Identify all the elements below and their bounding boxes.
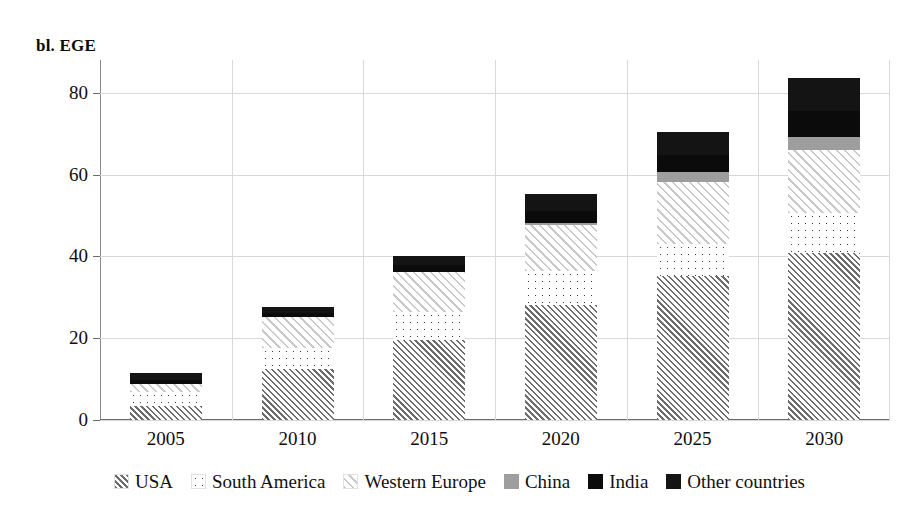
legend-label: China: [525, 472, 570, 491]
bar-segment-south-america-2020[interactable]: [525, 271, 597, 305]
x-axis-tick-label-2015: 2015: [384, 428, 474, 450]
bar-segment-china-2025[interactable]: [657, 172, 729, 181]
x-gridline: [889, 60, 890, 420]
legend-item-south-america[interactable]: South America: [191, 472, 325, 491]
y-tick-mark: [93, 256, 100, 257]
legend-item-india[interactable]: India: [588, 472, 648, 491]
x-gridline: [495, 60, 496, 420]
bar-segment-usa-2030[interactable]: [788, 253, 860, 420]
x-axis-tick-label-2010: 2010: [253, 428, 343, 450]
bar-segment-south-america-2005[interactable]: [130, 392, 202, 406]
legend-item-china[interactable]: China: [504, 472, 570, 491]
x-gridline: [627, 60, 628, 420]
india-black-swatch: [588, 474, 603, 489]
bar-segment-other-countries-2020[interactable]: [525, 194, 597, 211]
bar-2030[interactable]: [788, 78, 860, 420]
y-axis-tick-label: 20: [28, 327, 88, 349]
bar-segment-south-america-2025[interactable]: [657, 244, 729, 276]
x-axis-tick-label-2020: 2020: [516, 428, 606, 450]
x-axis-tick-label-2030: 2030: [779, 428, 869, 450]
bar-segment-usa-2015[interactable]: [393, 340, 465, 420]
other-countries-black-swatch: [666, 474, 681, 489]
bar-segment-western-europe-2015[interactable]: [393, 272, 465, 313]
legend-item-usa[interactable]: USA: [114, 472, 173, 491]
china-gray-swatch: [504, 474, 519, 489]
western-europe-hatch-swatch: [343, 474, 358, 489]
bar-segment-india-2020[interactable]: [525, 211, 597, 222]
y-tick-mark: [93, 93, 100, 94]
bar-segment-india-2025[interactable]: [657, 155, 729, 172]
bar-segment-south-america-2030[interactable]: [788, 213, 860, 253]
bar-segment-usa-2005[interactable]: [130, 406, 202, 420]
chart-legend: USASouth AmericaWestern EuropeChinaIndia…: [0, 472, 919, 491]
y-tick-mark: [93, 338, 100, 339]
bar-segment-other-countries-2015[interactable]: [393, 256, 465, 265]
y-gridline: [100, 420, 890, 421]
bar-segment-western-europe-2010[interactable]: [262, 317, 334, 348]
bar-segment-usa-2020[interactable]: [525, 305, 597, 420]
bar-segment-western-europe-2025[interactable]: [657, 182, 729, 244]
bar-segment-china-2030[interactable]: [788, 137, 860, 151]
x-axis-tick-label-2005: 2005: [121, 428, 211, 450]
bar-2015[interactable]: [393, 256, 465, 420]
x-axis-tick-label-2025: 2025: [648, 428, 738, 450]
usa-hatch-swatch: [114, 474, 129, 489]
bar-2025[interactable]: [657, 132, 729, 420]
bar-2005[interactable]: [130, 373, 202, 420]
bar-segment-other-countries-2030[interactable]: [788, 78, 860, 111]
bar-2010[interactable]: [262, 307, 334, 420]
bar-segment-western-europe-2005[interactable]: [130, 384, 202, 393]
y-axis-title: bl. EGE: [36, 36, 96, 56]
x-gridline: [758, 60, 759, 420]
bar-segment-south-america-2015[interactable]: [393, 312, 465, 340]
south-america-dots-swatch: [191, 474, 206, 489]
y-tick-mark: [93, 420, 100, 421]
plot-area: 020406080: [100, 60, 890, 420]
bar-segment-western-europe-2030[interactable]: [788, 150, 860, 213]
bar-segment-india-2030[interactable]: [788, 111, 860, 136]
y-axis-line: [100, 60, 101, 420]
legend-item-western-europe[interactable]: Western Europe: [343, 472, 485, 491]
bar-segment-usa-2010[interactable]: [262, 369, 334, 420]
x-gridline: [232, 60, 233, 420]
legend-label: South America: [212, 472, 325, 491]
y-tick-mark: [93, 175, 100, 176]
y-axis-tick-label: 40: [28, 245, 88, 267]
bar-segment-western-europe-2020[interactable]: [525, 225, 597, 271]
legend-label: USA: [135, 472, 173, 491]
legend-label: India: [609, 472, 648, 491]
legend-item-other-countries[interactable]: Other countries: [666, 472, 805, 491]
y-axis-tick-label: 80: [28, 82, 88, 104]
y-axis-tick-label: 60: [28, 164, 88, 186]
legend-label: Western Europe: [364, 472, 485, 491]
bar-segment-usa-2025[interactable]: [657, 276, 729, 420]
y-axis-tick-label: 0: [28, 409, 88, 431]
bar-segment-south-america-2010[interactable]: [262, 348, 334, 368]
bar-segment-other-countries-2025[interactable]: [657, 132, 729, 155]
legend-label: Other countries: [687, 472, 805, 491]
bar-2020[interactable]: [525, 194, 597, 420]
x-gridline: [363, 60, 364, 420]
stacked-bar-chart: bl. EGE 020406080 USASouth AmericaWester…: [0, 0, 919, 520]
